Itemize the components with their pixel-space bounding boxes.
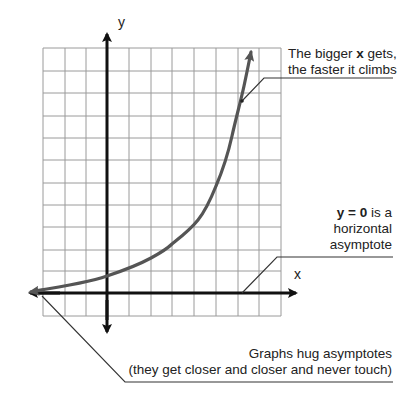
curve-left-arrow [30,290,44,292]
hug-line-1: Graphs hug asymptotes [129,346,392,362]
asymptote-line-3: asymptote [330,237,392,253]
exponential-curve [34,52,251,291]
growth-leader [242,78,393,101]
asymptote-line-1: y = 0 is a [330,205,392,221]
asymptote-annotation: y = 0 is a horizontal asymptote [330,205,392,253]
growth-annotation: The bigger x gets, the faster it climbs [288,46,397,78]
grid [43,48,281,316]
hug-line-2: (they get closer and closer and never to… [129,362,392,378]
y-axis-label: y [118,14,125,30]
hug-annotation: Graphs hug asymptotes (they get closer a… [129,346,392,378]
x-axis-label: x [294,266,301,282]
asymptote-leader [242,257,393,293]
asymptote-line-2: horizontal [330,221,392,237]
growth-line-2: the faster it climbs [288,62,397,78]
growth-line-1: The bigger x gets, [288,46,397,62]
